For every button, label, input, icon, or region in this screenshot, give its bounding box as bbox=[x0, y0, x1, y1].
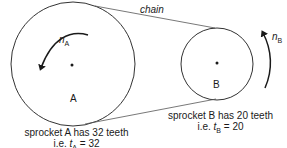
speed-label-a: nA bbox=[59, 34, 69, 49]
teeth-value-a: = 32 bbox=[77, 138, 100, 148]
caption-b-prefix: i.e. bbox=[197, 121, 213, 132]
caption-b: sprocket B has 20 teeth i.e. tB = 20 bbox=[163, 110, 278, 136]
speed-label-b: nB bbox=[272, 31, 282, 46]
rotation-arrow-b bbox=[263, 33, 270, 88]
chain-label: chain bbox=[140, 4, 164, 15]
sprocket-a-center bbox=[71, 64, 74, 67]
sprocket-a-letter: A bbox=[70, 93, 77, 104]
sprocket-b-letter: B bbox=[213, 79, 220, 90]
teeth-value-b: = 20 bbox=[221, 121, 244, 132]
caption-b-line2: i.e. tB = 20 bbox=[163, 121, 278, 136]
caption-a-prefix: i.e. bbox=[53, 138, 69, 148]
speed-subscript-b: B bbox=[278, 37, 283, 44]
sprocket-b-center bbox=[216, 62, 219, 65]
caption-a-line1: sprocket A has 32 teeth bbox=[19, 127, 134, 138]
caption-a: sprocket A has 32 teeth i.e. tA = 32 bbox=[19, 127, 134, 148]
caption-a-line2: i.e. tA = 32 bbox=[19, 138, 134, 148]
speed-subscript-a: A bbox=[65, 40, 70, 47]
caption-b-line1: sprocket B has 20 teeth bbox=[163, 110, 278, 121]
